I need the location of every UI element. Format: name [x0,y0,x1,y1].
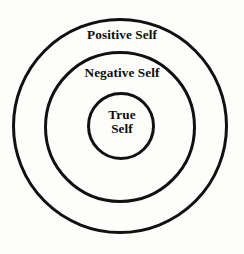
inner-ring-label-line-2: Self [0,122,244,136]
outer-ring-label: Positive Self [0,28,244,42]
inner-ring-label-line-1: True [0,108,244,122]
concentric-self-diagram: Positive Self Negative Self True Self [0,0,244,254]
inner-ring-label: True Self [0,108,244,136]
middle-ring-label: Negative Self [0,66,244,80]
